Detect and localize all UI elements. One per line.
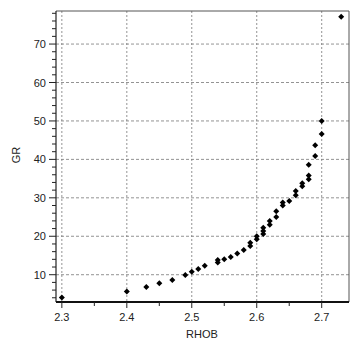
x-tick-label: 2.7 — [314, 311, 329, 323]
y-tick-label: 40 — [34, 153, 46, 165]
y-axis-title: GR — [10, 147, 22, 164]
y-tick-label: 50 — [34, 115, 46, 127]
x-tick-label: 2.5 — [184, 311, 199, 323]
y-tick-label: 10 — [34, 269, 46, 281]
x-tick-label: 2.4 — [119, 311, 134, 323]
scatter-chart: 102030405060702.32.42.52.62.7 RHOB GR — [0, 0, 359, 348]
y-tick-label: 30 — [34, 192, 46, 204]
y-tick-label: 60 — [34, 77, 46, 89]
y-tick-label: 70 — [34, 38, 46, 50]
x-tick-label: 2.3 — [54, 311, 69, 323]
x-tick-label: 2.6 — [249, 311, 264, 323]
y-tick-label: 20 — [34, 230, 46, 242]
x-axis-title: RHOB — [186, 328, 218, 340]
